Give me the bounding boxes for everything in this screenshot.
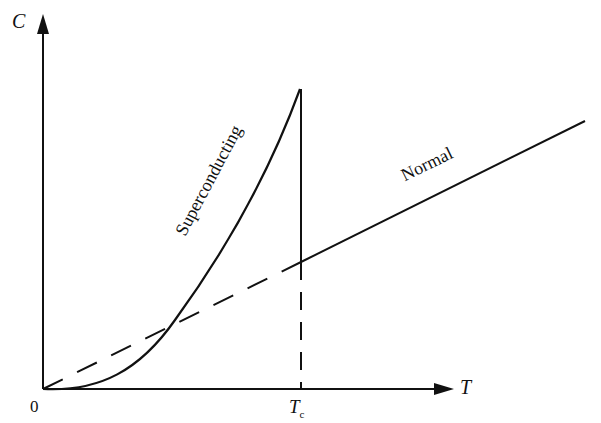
x-axis-arrowhead-icon <box>434 383 454 395</box>
origin-label: 0 <box>30 397 39 417</box>
y-axis-label: C <box>12 10 25 33</box>
x-axis-label: T <box>460 376 471 399</box>
tc-label: Tc <box>289 396 304 420</box>
tc-label-main: T <box>289 396 300 417</box>
y-axis-arrowhead-icon <box>37 14 49 34</box>
tc-label-sub: c <box>300 408 305 420</box>
heat-capacity-diagram: C T 0 Tc Superconducting Normal <box>0 0 601 423</box>
superconducting-curve <box>43 89 300 389</box>
normal-curve <box>301 121 585 262</box>
diagram-svg <box>0 0 601 423</box>
